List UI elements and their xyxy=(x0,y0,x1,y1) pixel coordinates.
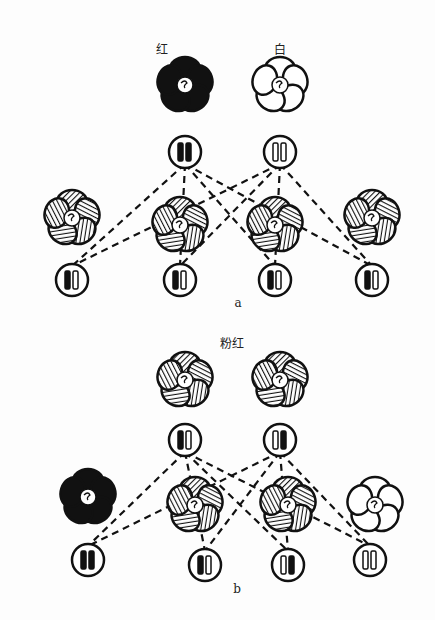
panel_b-offspring-flower-3 xyxy=(344,477,407,536)
caption-a: a xyxy=(234,296,241,310)
label-pink: 粉红 xyxy=(220,334,244,351)
panel_b-offspring-flower-2 xyxy=(257,477,320,536)
panel_b-parent-genotype-0 xyxy=(169,424,201,456)
panel_b-parent-flower-1 xyxy=(249,352,312,411)
panel_a-parent-genotype-0 xyxy=(169,136,201,168)
label-red: 红 xyxy=(156,40,168,57)
panel_a-offspring-genotype-2 xyxy=(259,264,291,296)
panel_b-offspring-genotype-1 xyxy=(189,549,221,581)
panel_a-offspring-genotype-1 xyxy=(164,264,196,296)
panel_a-offspring-genotype-0 xyxy=(56,264,88,296)
panel_a-offspring-flower-2 xyxy=(244,197,307,256)
panel_a-offspring-flower-1 xyxy=(149,197,212,256)
caption-b: b xyxy=(233,582,241,596)
panel_a-offspring-flower-0 xyxy=(41,190,104,249)
panel_b-offspring-genotype-2 xyxy=(272,549,304,581)
panel_b-parent-flower-0 xyxy=(154,352,217,411)
panel_a-parent-flower-1 xyxy=(249,57,312,116)
panel_b-offspring-genotype-0 xyxy=(72,544,104,576)
label-white: 白 xyxy=(274,40,286,57)
diagram-artwork xyxy=(0,0,435,620)
panel_b-offspring-flower-1 xyxy=(164,477,227,536)
panel_a-offspring-flower-3 xyxy=(341,190,404,249)
panel_b-parent-genotype-1 xyxy=(264,424,296,456)
genetics-diagram: 红 白 a 粉红 b xyxy=(0,0,435,620)
panel_a-parent-flower-0 xyxy=(154,57,217,116)
panel_b-offspring-flower-0 xyxy=(57,469,120,528)
panel_a-offspring-genotype-3 xyxy=(356,264,388,296)
panel_a-parent-genotype-1 xyxy=(264,136,296,168)
panel_b-offspring-genotype-3 xyxy=(354,544,386,576)
